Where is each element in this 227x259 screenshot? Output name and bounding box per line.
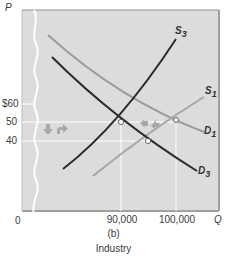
y-axis-label: P: [5, 3, 12, 13]
equilibrium-point-s1-d3: [145, 138, 150, 143]
curve-label-s1-sub: 1: [212, 89, 217, 99]
industry-supply-demand-figure: P Q 0 $60 50 40 90,000 100,000 S3 S1 D1 …: [0, 0, 227, 259]
equilibrium-point-s1-d1: [173, 117, 178, 122]
y-tick-50: 50: [6, 117, 36, 127]
x-tick-100000: 100,000: [159, 215, 195, 225]
panel-label: (b): [0, 229, 227, 239]
x-axis-label: Q: [214, 215, 222, 225]
equilibrium-point-s3-d3: [118, 119, 123, 124]
curve-label-s3: S3: [175, 26, 187, 39]
y-tick-40: 40: [6, 136, 36, 146]
origin-label: 0: [15, 216, 21, 226]
curve-label-d3-sub: 3: [205, 169, 210, 179]
curve-label-s1-main: S: [205, 85, 212, 96]
curve-label-s1: S1: [205, 86, 217, 99]
curve-label-s3-main: S: [175, 25, 182, 36]
curve-label-d3: D3: [198, 166, 210, 179]
figure-caption: Industry: [0, 244, 227, 254]
x-tick-90000: 90,000: [107, 215, 138, 225]
y-tick-60: $60: [2, 99, 32, 109]
curve-label-d1-sub: 1: [211, 129, 216, 139]
curve-label-d1: D1: [204, 126, 216, 139]
curve-label-s3-sub: 3: [182, 29, 187, 39]
